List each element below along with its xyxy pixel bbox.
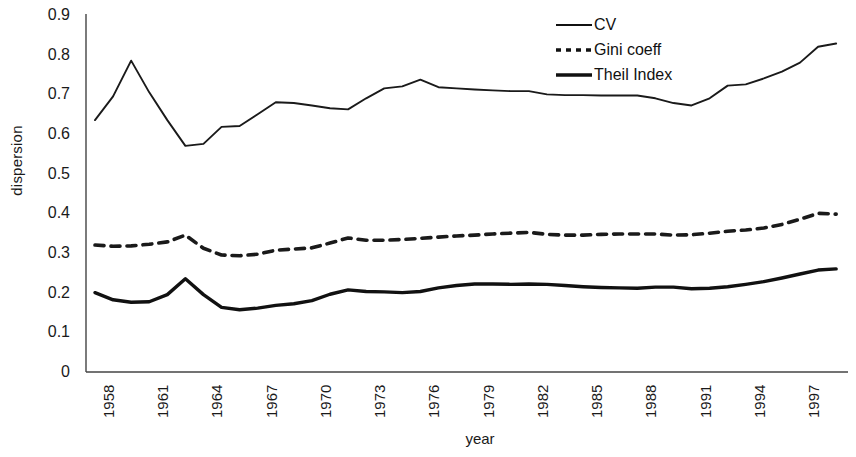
dispersion-line-chart: dispersion year 00.10.20.30.40.50.60.70.… [0, 0, 856, 457]
axis-lines [86, 14, 848, 372]
series-line-theil-index [95, 269, 836, 310]
series-line-gini-coeff [95, 213, 836, 255]
series-line-cv [95, 44, 836, 146]
data-series-layer [95, 44, 836, 310]
legend-swatches [556, 25, 592, 75]
plot-area [0, 0, 856, 457]
legend-label-cv: CV [594, 17, 616, 33]
legend-label-gini-coeff: Gini coeff [594, 42, 661, 58]
legend-label-theil-index: Theil Index [594, 67, 672, 83]
